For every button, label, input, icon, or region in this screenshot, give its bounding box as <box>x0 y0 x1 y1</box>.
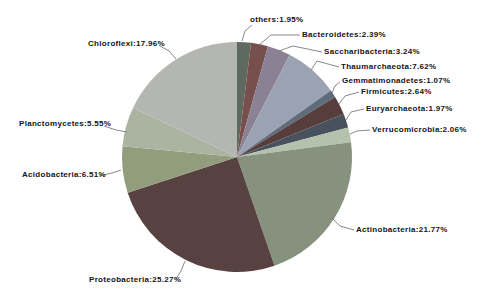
label-verrucomicrobia: Verrucomicrobia:2.06% <box>372 125 467 134</box>
label-euryarchaeota: Euryarchaeota:1.97% <box>366 104 453 113</box>
leader-line-euryarchaeota <box>346 109 364 120</box>
leader-line-others <box>242 25 252 41</box>
leader-line-gemmatimonadetes <box>332 82 340 93</box>
pie-chart <box>0 0 478 304</box>
label-actinobacteria: Actinobacteria:21.77% <box>356 225 448 234</box>
pie-slices <box>122 42 352 272</box>
label-others: others:1.95% <box>250 15 303 24</box>
label-saccharibacteria: Saccharibacteria:3.24% <box>324 47 420 56</box>
leader-line-actinobacteria <box>331 217 354 230</box>
leader-line-firmicutes <box>339 92 359 104</box>
label-gemmatimonadetes: Gemmatimonadetes:1.07% <box>342 76 450 85</box>
leader-line-bacteroidetes <box>259 35 300 45</box>
label-proteobacteria: Proteobacteria:25.27% <box>89 275 181 284</box>
leader-line-verrucomicrobia <box>350 130 370 134</box>
label-bacteroidetes: Bacteroidetes:2.39% <box>302 30 386 39</box>
pie-chart-figure: others:1.95% Bacteroidetes:2.39% Sacchar… <box>0 0 478 304</box>
label-acidobacteria: Acidobacteria:6.51% <box>22 170 106 179</box>
label-thaumarchaeota: Thaumarchaeota:7.62% <box>341 62 436 71</box>
leader-line-saccharibacteria <box>279 46 322 52</box>
label-planctomycetes: Planctomycetes:5.55% <box>19 119 111 128</box>
leader-line-thaumarchaeota <box>311 61 339 70</box>
label-chloroflexi: Chloroflexi:17.96% <box>88 39 165 48</box>
label-firmicutes: Firmicutes:2.64% <box>361 87 432 96</box>
